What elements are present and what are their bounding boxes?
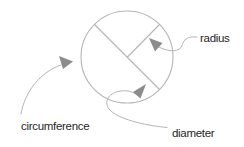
diagram-canvas: circumference radius diameter [0, 0, 244, 147]
diameter-arrow-icon [133, 84, 146, 99]
circle-parts-diagram: circumference radius diameter [0, 0, 244, 147]
radius-leader-line [158, 37, 197, 51]
diameter-leader-line [107, 91, 167, 128]
circumference-leader-line [21, 65, 61, 114]
radius-label: radius [200, 32, 230, 44]
radius-arrow-icon [149, 38, 163, 52]
diameter-label: diameter [172, 127, 215, 139]
circumference-label: circumference [21, 120, 89, 132]
circumference-arrow-icon [59, 56, 73, 69]
